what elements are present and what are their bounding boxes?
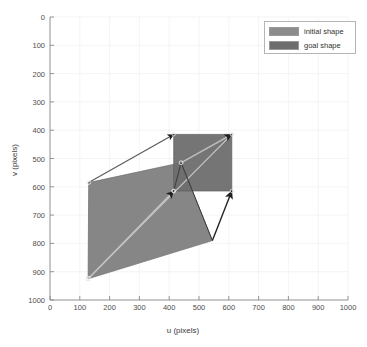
x-axis-title: u (pixels) bbox=[167, 326, 199, 335]
legend-item-initial-shape[interactable]: initial shape bbox=[269, 25, 351, 37]
legend-item-goal-shape[interactable]: goal shape bbox=[269, 39, 351, 51]
x-tick-label-200: 200 bbox=[103, 303, 116, 312]
legend[interactable]: initial shape goal shape bbox=[264, 21, 356, 54]
figure-container: 0 100 200 300 400 500 600 700 800 900 10… bbox=[0, 0, 367, 347]
y-tick-label-1000: 1000 bbox=[18, 296, 45, 305]
legend-label-goal-shape: goal shape bbox=[304, 41, 341, 50]
x-tick-label-900: 900 bbox=[312, 303, 325, 312]
x-tick-label-1000: 1000 bbox=[340, 303, 357, 312]
y-tick-label-0: 0 bbox=[23, 13, 45, 22]
x-tick-label-0: 0 bbox=[48, 303, 52, 312]
legend-swatch-initial-shape bbox=[269, 27, 299, 36]
x-tick-label-800: 800 bbox=[282, 303, 295, 312]
x-tick-label-400: 400 bbox=[163, 303, 176, 312]
x-tick-label-100: 100 bbox=[74, 303, 87, 312]
legend-swatch-goal-shape bbox=[269, 41, 299, 50]
y-tick-label-400: 400 bbox=[23, 126, 45, 135]
x-tick-label-600: 600 bbox=[223, 303, 236, 312]
x-tick-label-500: 500 bbox=[193, 303, 206, 312]
y-tick-label-900: 900 bbox=[23, 267, 45, 276]
y-tick-label-200: 200 bbox=[23, 69, 45, 78]
y-tick-label-600: 600 bbox=[23, 182, 45, 191]
x-tick-label-300: 300 bbox=[133, 303, 146, 312]
y-tick-label-700: 700 bbox=[23, 211, 45, 220]
y-tick-label-300: 300 bbox=[23, 97, 45, 106]
y-tick-label-100: 100 bbox=[23, 41, 45, 50]
y-tick-label-800: 800 bbox=[23, 239, 45, 248]
y-tick-label-500: 500 bbox=[23, 154, 45, 163]
y-axis-title: v (pixels) bbox=[10, 144, 19, 176]
x-tick-label-700: 700 bbox=[252, 303, 265, 312]
legend-label-initial-shape: initial shape bbox=[304, 27, 344, 36]
